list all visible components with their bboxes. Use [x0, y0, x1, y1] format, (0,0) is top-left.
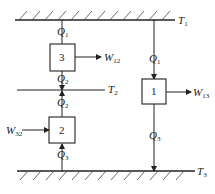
t2-label: T2 — [108, 83, 118, 97]
w13-label: W13 — [193, 86, 210, 100]
reservoir-t3: T3 — [17, 165, 207, 180]
reservoir-t1: T1 — [15, 11, 188, 28]
q1-left-label: Q1 — [57, 25, 69, 39]
w32-label: W32 — [6, 124, 23, 138]
q1-right-label: Q1 — [149, 52, 161, 66]
heat-engine-diagram: T1 T2 T3 Q1 3 W12 Q2 Q2 2 W32 Q3 — [0, 0, 215, 194]
engine-3-label: 3 — [59, 51, 65, 63]
t3-label: T3 — [197, 165, 207, 179]
engine-2-label: 2 — [59, 124, 65, 136]
q2-lower-label: Q2 — [57, 96, 69, 110]
w12-label: W12 — [104, 51, 121, 65]
q3-left-label: Q3 — [57, 148, 69, 162]
q3-right-label: Q3 — [149, 129, 161, 143]
q2-upper-label: Q2 — [57, 72, 69, 86]
t1-label: T1 — [178, 14, 188, 28]
engine-1-label: 1 — [151, 85, 157, 97]
